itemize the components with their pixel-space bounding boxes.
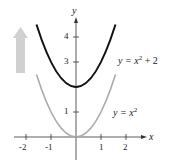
x-tick-label: 2 — [123, 142, 128, 152]
legend-label-shifted: y = x2 + 2 — [118, 54, 158, 66]
shift-up-arrow-icon — [13, 27, 28, 73]
y-tick-label: 3 — [64, 56, 69, 66]
y-axis-label: y — [72, 5, 76, 16]
y-tick-label: 1 — [64, 106, 69, 116]
x-axis-label: x — [149, 131, 153, 142]
legend-label-base: y = x2 — [113, 106, 137, 118]
x-tick-label: -1 — [45, 142, 53, 152]
y-tick-label: 4 — [64, 31, 69, 41]
x-tick-label: -2 — [19, 142, 27, 152]
x-tick-label: 1 — [99, 142, 104, 152]
